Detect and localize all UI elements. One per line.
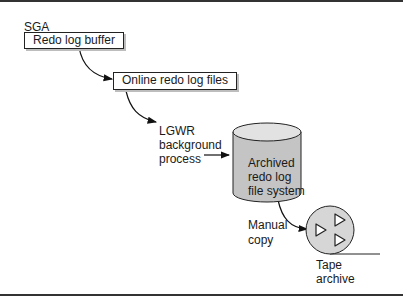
lgwr-line3: process <box>159 152 222 166</box>
manual-copy-line2: copy <box>248 233 287 248</box>
online-redo-log-files-label: Online redo log files <box>122 73 228 87</box>
lgwr-label: LGWR background process <box>159 124 222 166</box>
manual-copy-line1: Manual <box>248 218 287 233</box>
archived-fs-line2: redo log <box>248 170 305 184</box>
arrow-online-to-lgwr <box>126 91 156 122</box>
tape-reel-icon <box>306 206 380 254</box>
arrow-buffer-to-online <box>79 47 112 79</box>
tape-archive-label: Tape archive <box>316 258 355 286</box>
tape-archive-line2: archive <box>316 272 355 286</box>
archived-fs-line1: Archived <box>248 156 305 170</box>
redo-log-buffer-box: Redo log buffer <box>24 32 124 49</box>
archived-fs-line3: file system <box>248 184 305 198</box>
lgwr-line2: background <box>159 138 222 152</box>
redo-log-buffer-label: Redo log buffer <box>33 33 115 47</box>
online-redo-log-files-box: Online redo log files <box>113 72 237 90</box>
archived-fs-label: Archived redo log file system <box>248 156 305 198</box>
lgwr-line1: LGWR <box>159 124 222 138</box>
tape-archive-line1: Tape <box>316 258 355 272</box>
manual-copy-label: Manual copy <box>248 218 287 248</box>
